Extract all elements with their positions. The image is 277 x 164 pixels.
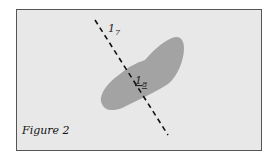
shaded-region [101,37,184,110]
figure-caption: Figure 2 [22,124,70,137]
figure-diagram: 17 18 [0,0,277,164]
label-upper: 17 [108,22,121,37]
